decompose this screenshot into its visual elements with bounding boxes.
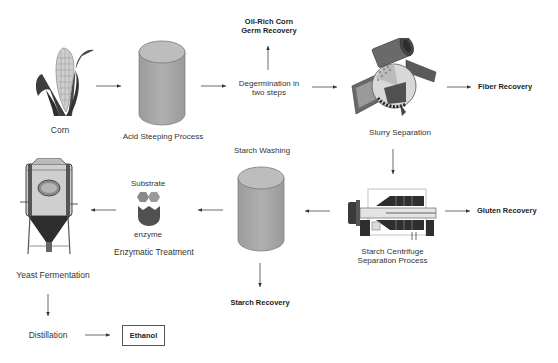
starch-washing-node: [236, 164, 286, 254]
cylinder-tank-icon: [137, 38, 187, 128]
germ-recovery-label-2: Germ Recovery: [233, 26, 305, 36]
enzyme-icon: [138, 206, 160, 226]
slurry-separation-node: [348, 38, 438, 120]
yeast-fermentation-label: Yeast Fermentation: [8, 270, 98, 280]
corn-label: Corn: [30, 125, 90, 135]
substrate-label: Substrate: [120, 179, 176, 189]
acid-steeping-node: [137, 38, 187, 128]
enzymatic-treatment-label: Enzymatic Treatment: [104, 247, 204, 257]
ethanol-box: Ethanol: [122, 325, 165, 346]
fiber-recovery-label: Fiber Recovery: [478, 82, 543, 92]
fermentation-node: [18, 158, 80, 258]
fermenter-tank-icon: [18, 158, 80, 258]
enzymatic-treatment-node: [134, 189, 164, 227]
slurry-separation-label: Slurry Separation: [360, 128, 440, 138]
substrate-icon: [137, 192, 149, 202]
corn-cob-icon: [32, 46, 98, 118]
gluten-recovery-label: Gluten Recovery: [477, 206, 547, 216]
centrifuge-node: [346, 186, 438, 242]
cylinder-tank-icon: [236, 164, 286, 254]
starch-recovery-label: Starch Recovery: [222, 298, 298, 308]
acid-steeping-label: Acid Steeping Process: [118, 132, 208, 142]
slurry-separator-machine-icon: [348, 38, 438, 120]
centrifuge-label-2: Separation Process: [350, 256, 435, 266]
corn-node: [32, 46, 98, 118]
centrifuge-machine-icon: [346, 186, 438, 242]
starch-washing-label: Starch Washing: [226, 146, 298, 156]
substrate-enzyme-icon: [134, 189, 164, 227]
degermination-label-2: two steps: [234, 88, 304, 98]
enzyme-label: enzyme: [120, 230, 176, 240]
distillation-label: Distillation: [20, 330, 76, 340]
